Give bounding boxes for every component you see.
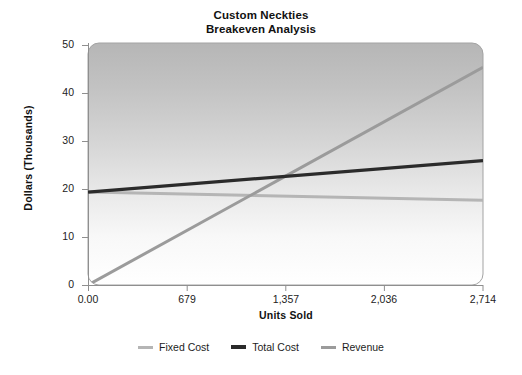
breakeven-chart: Custom Neckties Breakeven Analysis [0, 0, 522, 375]
y-tick-label-10: 10 [44, 230, 74, 242]
x-tick-label-2714: 2,714 [448, 293, 518, 305]
legend-swatch-fixed-cost-icon [138, 346, 153, 349]
y-axis-title: Dollars (Thousands) [22, 78, 34, 238]
legend-item-total-cost[interactable]: Total Cost [231, 341, 299, 353]
y-tick-label-0: 0 [44, 278, 74, 290]
y-tick-label-50: 50 [44, 38, 74, 50]
y-tick-label-20: 20 [44, 182, 74, 194]
legend-item-fixed-cost[interactable]: Fixed Cost [138, 341, 209, 353]
x-axis-title: Units Sold [88, 309, 484, 321]
legend-swatch-total-cost-icon [231, 345, 246, 349]
legend-label-fixed-cost: Fixed Cost [159, 341, 209, 353]
legend-swatch-revenue-icon [321, 346, 336, 349]
legend-label-total-cost: Total Cost [252, 341, 299, 353]
x-tick-label-2036: 2,036 [349, 293, 419, 305]
chart-legend: Fixed Cost Total Cost Revenue [0, 341, 522, 353]
x-tick-label-0: 0.00 [53, 293, 123, 305]
y-tick-label-30: 30 [44, 134, 74, 146]
x-tick-label-679: 679 [152, 293, 222, 305]
x-tick-label-1357: 1,357 [251, 293, 321, 305]
y-tick-marks [82, 46, 88, 286]
legend-label-revenue: Revenue [342, 341, 384, 353]
legend-item-revenue[interactable]: Revenue [321, 341, 384, 353]
y-tick-label-40: 40 [44, 86, 74, 98]
